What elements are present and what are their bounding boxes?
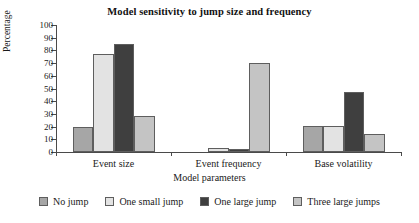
legend-item[interactable]: No jump	[39, 196, 88, 207]
y-axis-line	[56, 25, 57, 152]
plot-area: 0102030405060708090100 Event sizeEvent f…	[56, 25, 401, 152]
y-axis-tick-label: 40	[44, 97, 53, 106]
legend-label: Three large jumps	[307, 196, 380, 207]
chart-legend: No jumpOne small jumpOne large jumpThree…	[0, 196, 419, 207]
y-axis-tick-label: 0	[49, 148, 54, 157]
legend-swatch-icon	[200, 197, 209, 206]
x-axis-title: Model parameters	[0, 172, 419, 183]
legend-label: One small jump	[119, 196, 183, 207]
legend-label: One large jump	[214, 196, 276, 207]
bar	[114, 44, 135, 152]
x-axis-category-label: Event size	[93, 158, 134, 169]
legend-item[interactable]: Three large jumps	[293, 196, 380, 207]
x-axis-tick-mark	[401, 152, 402, 156]
bar	[134, 116, 155, 152]
bar	[323, 126, 344, 152]
legend-swatch-icon	[105, 197, 114, 206]
y-axis-tick-label: 90	[44, 33, 53, 42]
x-axis-category-label: Base volatility	[314, 158, 372, 169]
x-axis-tick-mark	[56, 152, 57, 156]
y-axis-tick-label: 70	[44, 59, 53, 68]
bar	[229, 149, 250, 152]
y-axis-tick-label: 20	[44, 122, 53, 131]
y-axis-tick-label: 30	[44, 109, 53, 118]
bar	[303, 126, 324, 152]
y-axis-title: Percentage	[2, 10, 12, 52]
y-axis-tick-label: 100	[40, 21, 54, 30]
legend-item[interactable]: One large jump	[200, 196, 276, 207]
x-axis-tick-mark	[286, 152, 287, 156]
chart-title: Model sensitivity to jump size and frequ…	[0, 6, 419, 17]
x-axis-category-label: Event frequency	[196, 158, 262, 169]
bar	[93, 54, 114, 152]
bar-chart-figure: Model sensitivity to jump size and frequ…	[0, 0, 419, 223]
x-axis-tick-mark	[171, 152, 172, 156]
bar	[73, 127, 94, 152]
x-axis-line	[56, 152, 401, 153]
y-axis-tick-label: 10	[44, 135, 53, 144]
bar	[249, 63, 270, 152]
y-axis-tick-label: 50	[44, 84, 53, 93]
y-axis-tick-label: 80	[44, 46, 53, 55]
legend-label: No jump	[53, 196, 88, 207]
y-axis-tick-label: 60	[44, 71, 53, 80]
bar	[208, 148, 229, 152]
bar	[344, 92, 365, 152]
legend-item[interactable]: One small jump	[105, 196, 183, 207]
bar	[364, 134, 385, 152]
legend-swatch-icon	[293, 197, 302, 206]
legend-swatch-icon	[39, 197, 48, 206]
